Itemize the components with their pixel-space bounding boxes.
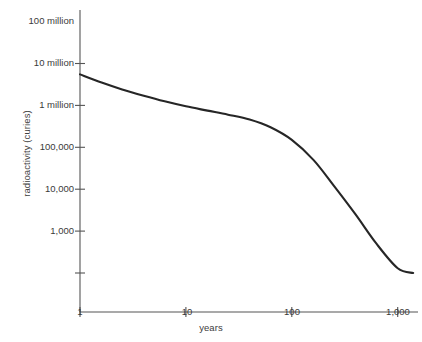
y-tick-label: 100,000 [2,141,74,152]
y-tick-label: 10,000 [2,183,74,194]
y-tick-label: 1 million [2,99,74,110]
x-tick-label: 1,000 [368,306,422,317]
x-tick-label: 10 [157,306,217,317]
x-axis-title: years [0,322,422,333]
y-tick-label: 100 million [2,15,74,26]
decay-curve [80,74,413,273]
x-tick-label: 1 [50,306,110,317]
y-tick-label: 10 million [2,57,74,68]
plot-area [0,0,422,342]
chart-figure: radioactivity (curies) years 100 million… [0,0,422,342]
x-tick-label: 100 [262,306,322,317]
y-axis-title: radioactivity (curies) [21,74,32,234]
y-tick-label: 1,000 [2,225,74,236]
